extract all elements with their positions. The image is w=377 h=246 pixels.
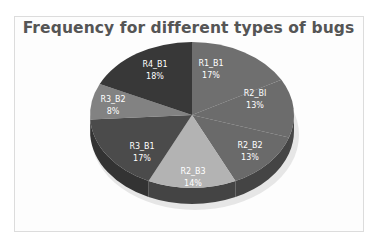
pie-chart: R1_B117%R2_BI13%R2_B213%R2_B314%R3_B117%… — [0, 0, 377, 246]
slice-label-category: R2_B2 — [237, 141, 262, 150]
slice-label-category: R3_B1 — [129, 142, 154, 151]
slice-label-category: R3_B2 — [100, 95, 125, 104]
slice-label-category: R1_B1 — [198, 59, 223, 68]
slice-label-value: 13% — [241, 153, 259, 162]
slice-label-value: 13% — [246, 101, 264, 110]
slice-label-value: 17% — [133, 154, 151, 163]
slice-label-category: R4_B1 — [142, 60, 167, 69]
slice-label-category: R2_BI — [244, 89, 267, 98]
slice-label-category: R2_B3 — [180, 167, 205, 176]
slice-label-value: 14% — [184, 179, 202, 188]
slice-label-value: 17% — [202, 71, 220, 80]
slice-label-value: 8% — [107, 107, 120, 116]
slice-label-value: 18% — [146, 72, 164, 81]
